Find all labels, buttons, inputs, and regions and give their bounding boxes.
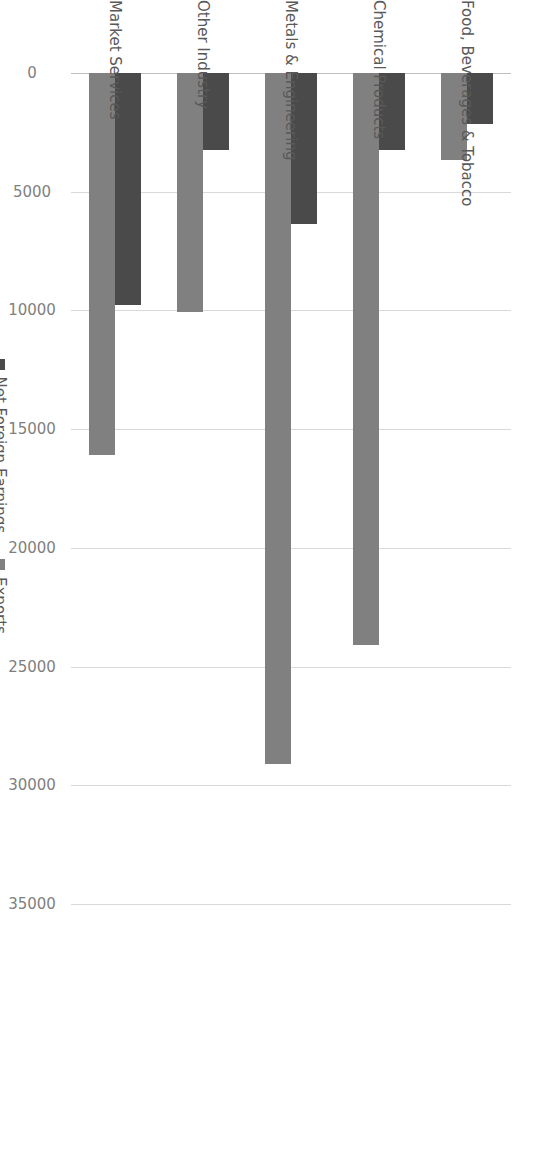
legend-label: Net Foreign Earnings [0,377,9,534]
tick-label-0: 0 [0,64,67,82]
legend-item[interactable]: Exports [0,559,9,634]
tick-label-35000: 35000 [0,895,67,913]
bar-exports[interactable] [265,73,291,764]
bar-exports[interactable] [353,73,379,645]
tick-label-10000: 10000 [0,301,67,319]
category-label: Market Services [106,0,124,61]
gridline [71,310,511,311]
plot-area [71,73,511,904]
bar-exports[interactable] [89,73,115,455]
legend-swatch-icon [0,559,6,570]
category-label: Metals & Engineering [282,0,300,61]
tick-label-15000: 15000 [0,420,67,438]
gridline [71,904,511,905]
chart-legend: Net Foreign EarningsExports [0,359,9,634]
gridline [71,785,511,786]
bar-chart-figure: 05000100001500020000250003000035000 Food… [0,0,541,1168]
tick-label-20000: 20000 [0,539,67,557]
tick-label-30000: 30000 [0,776,67,794]
tick-label-25000: 25000 [0,658,67,676]
chart-rotated-stage: 05000100001500020000250003000035000 Food… [0,0,541,1168]
gridline [71,548,511,549]
legend-item[interactable]: Net Foreign Earnings [0,359,9,534]
tick-label-5000: 5000 [0,183,67,201]
category-label: Chemical Products [370,0,388,61]
category-label: Other Industry [194,0,212,61]
legend-swatch-icon [0,359,6,370]
gridline [71,667,511,668]
legend-label: Exports [0,577,9,634]
gridline [71,429,511,430]
category-label: Food, Beverages & Tobacco [458,0,476,61]
